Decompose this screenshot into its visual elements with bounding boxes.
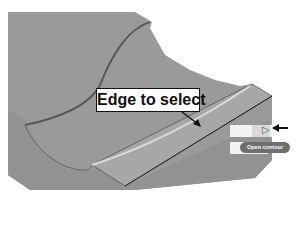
arrow-left-icon [272, 124, 279, 132]
open-contour-tooltip: Open contour [240, 142, 290, 153]
edge-callout-label: Edge to select [96, 88, 200, 112]
cursor-icon: ▷ [262, 124, 270, 136]
